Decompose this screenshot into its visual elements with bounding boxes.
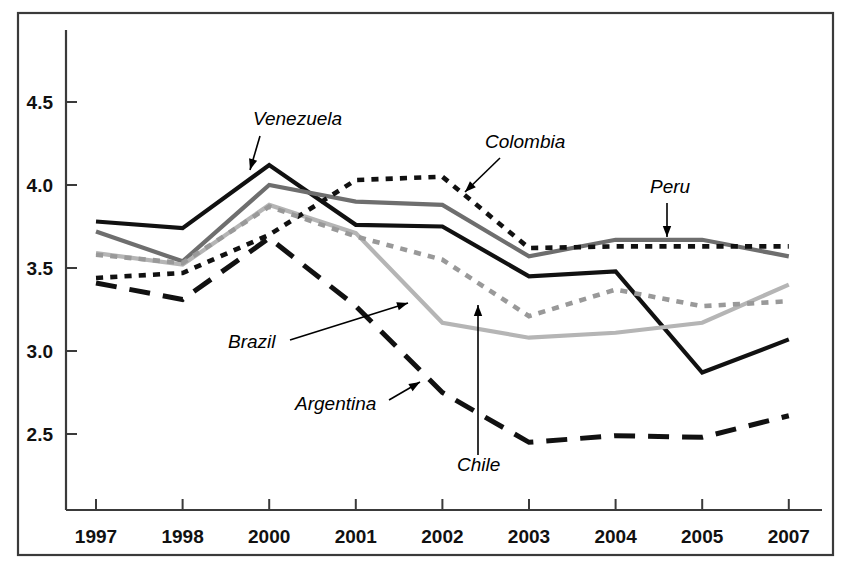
annotation-arrowhead-icon-argentina — [408, 382, 420, 391]
chart-axes — [66, 30, 822, 510]
series-line-brazil — [96, 207, 789, 317]
x-axis-ticks: 199719982000200120022003200420052007 — [75, 499, 810, 547]
annotation-label-brazil: Brazil — [228, 331, 276, 352]
x-tick-label: 1997 — [75, 526, 117, 547]
annotation-arrowhead-icon-brazil — [396, 302, 408, 310]
annotation-label-venezuela: Venezuela — [253, 108, 342, 129]
x-tick-label: 2005 — [681, 526, 724, 547]
x-tick-label: 2007 — [768, 526, 810, 547]
y-tick-label: 3.0 — [27, 341, 53, 362]
annotation-arrowhead-icon-venezuela — [249, 158, 257, 170]
annotation-arrowhead-icon-peru — [663, 226, 671, 237]
chart-figure: 2.53.03.54.04.5 199719982000200120022003… — [0, 0, 851, 581]
data-series-group — [96, 165, 789, 442]
plot-border — [18, 13, 833, 555]
annotation-arrowhead-icon-chile — [474, 305, 482, 316]
y-tick-label: 4.0 — [27, 175, 53, 196]
chart-frame — [18, 13, 833, 555]
x-tick-label: 2003 — [508, 526, 550, 547]
y-tick-label: 2.5 — [27, 424, 54, 445]
line-chart: 2.53.03.54.04.5 199719982000200120022003… — [0, 0, 851, 581]
annotation-label-argentina: Argentina — [294, 393, 376, 414]
annotation-label-chile: Chile — [457, 454, 500, 475]
series-line-argentina — [96, 238, 789, 442]
annotation-leader-brazil — [290, 303, 408, 340]
y-tick-label: 4.5 — [27, 92, 54, 113]
y-tick-label: 3.5 — [27, 258, 54, 279]
x-tick-label: 2000 — [248, 526, 290, 547]
annotation-label-colombia: Colombia — [485, 131, 565, 152]
x-tick-label: 2001 — [335, 526, 378, 547]
y-axis-ticks: 2.53.03.54.04.5 — [27, 92, 77, 445]
x-tick-label: 1998 — [161, 526, 203, 547]
annotation-label-peru: Peru — [650, 176, 691, 197]
x-tick-label: 2004 — [594, 526, 637, 547]
x-tick-label: 2002 — [421, 526, 463, 547]
